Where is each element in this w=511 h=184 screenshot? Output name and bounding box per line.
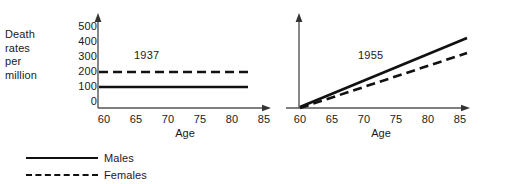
year-annotation-1937: 1937 (134, 50, 159, 61)
x-tick-label-60: 60 (289, 114, 311, 125)
legend-item-males: Males (26, 150, 236, 167)
y-tick-label-0: 0 (71, 96, 97, 107)
series-line-females-1955 (300, 53, 467, 108)
legend-swatch-solid-line-icon (26, 157, 98, 159)
y-axis-title: Death rates per million (5, 28, 67, 82)
x-tick-label-85: 85 (253, 114, 275, 125)
y-axis-arrowhead (296, 13, 303, 22)
figure-canvas: Death rates per million 500 400 300 200 … (0, 0, 511, 184)
legend: Males Females (26, 150, 236, 184)
series-line-males-1955 (300, 38, 467, 107)
x-axis-arrowhead (461, 105, 470, 111)
x-axis-title: Age (351, 128, 411, 139)
y-tick-label-200: 200 (71, 66, 97, 77)
x-tick-label-70: 70 (353, 114, 375, 125)
x-axis-title: Age (155, 128, 215, 139)
x-tick-label-70: 70 (157, 114, 179, 125)
x-tick-label-60: 60 (93, 114, 115, 125)
x-tick-label-80: 80 (221, 114, 243, 125)
y-tick-label-500: 500 (71, 21, 97, 32)
x-tick-label-75: 75 (385, 114, 407, 125)
x-axis-arrowhead (262, 105, 271, 111)
legend-label-females: Females (104, 167, 147, 184)
y-tick-label-100: 100 (71, 81, 97, 92)
y-tick-label-300: 300 (71, 51, 97, 62)
y-tick-label-400: 400 (71, 36, 97, 47)
x-tick-label-75: 75 (189, 114, 211, 125)
x-tick-label-80: 80 (417, 114, 439, 125)
legend-item-females: Females (26, 167, 236, 184)
x-tick-label-65: 65 (321, 114, 343, 125)
x-tick-label-65: 65 (125, 114, 147, 125)
year-annotation-1955: 1955 (358, 50, 383, 61)
x-tick-label-85: 85 (449, 114, 471, 125)
legend-label-males: Males (104, 150, 134, 167)
legend-swatch-dashed-line-icon (26, 174, 98, 176)
